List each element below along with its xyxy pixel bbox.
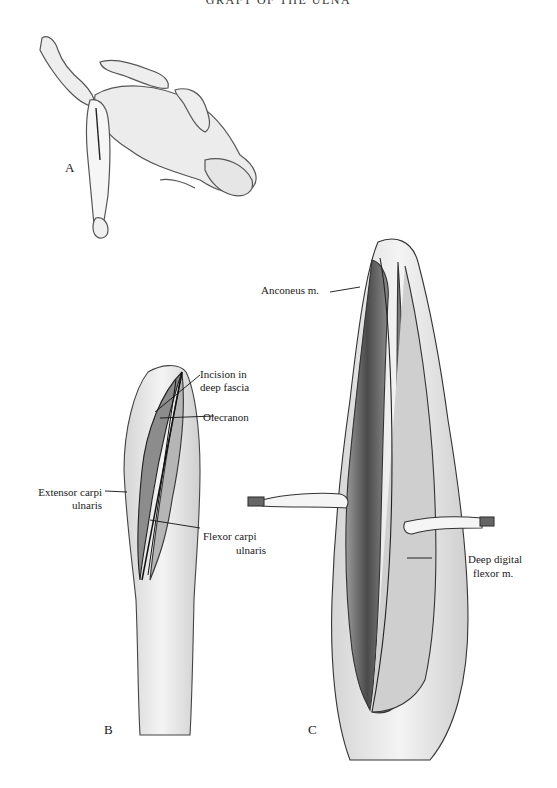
label-anconeus: Anconeus m. xyxy=(261,284,319,297)
label-incision-line1: Incision in xyxy=(200,368,247,381)
label-flexor-line1: Flexor carpi xyxy=(203,530,256,543)
label-incision-line2: deep fascia xyxy=(200,381,249,394)
figure-c-drawing xyxy=(248,239,494,760)
figure-c-letter: C xyxy=(308,722,317,738)
figure-a-letter: A xyxy=(65,160,74,176)
label-flexor-line2: ulnaris xyxy=(203,544,266,557)
anatomical-illustrations xyxy=(0,0,557,788)
label-deep-digital-line1: Deep digital xyxy=(468,553,522,566)
figure-a-drawing xyxy=(40,37,256,238)
label-olecranon: Olecranon xyxy=(203,411,249,424)
label-deep-digital-line2: flexor m. xyxy=(473,567,513,580)
figure-b-letter: B xyxy=(104,722,113,738)
figure-b-drawing xyxy=(124,366,200,735)
label-extensor-line1: Extensor carpi xyxy=(22,486,102,499)
label-extensor-line2: ulnaris xyxy=(22,499,102,512)
